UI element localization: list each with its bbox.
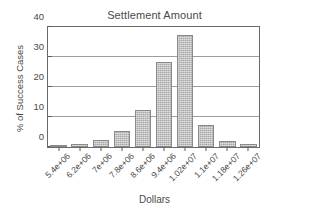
bar-cell xyxy=(238,27,259,147)
x-axis-tick-labels: 5.4e+066.2e+067e+067.8e+068.6e+069.4e+06… xyxy=(47,151,260,195)
bar xyxy=(198,125,214,148)
bar-cell xyxy=(69,27,90,147)
chart-figure: Settlement Amount % of Success Cases 010… xyxy=(0,0,309,216)
plot-area: 010203040 xyxy=(47,26,260,148)
bar xyxy=(177,35,193,147)
bar-cell xyxy=(196,27,217,147)
bar-cell xyxy=(153,27,174,147)
bar-cell xyxy=(175,27,196,147)
bar-series xyxy=(48,27,259,147)
bar-cell xyxy=(217,27,238,147)
y-axis-tick-label: 20 xyxy=(33,71,44,82)
y-axis-tick-label: 30 xyxy=(33,41,44,52)
chart-title: Settlement Amount xyxy=(0,9,309,21)
y-axis-tick-label: 40 xyxy=(33,11,44,22)
bar-cell xyxy=(90,27,111,147)
bar xyxy=(156,62,172,147)
bar xyxy=(114,131,130,148)
y-axis-tick-label: 10 xyxy=(33,101,44,112)
x-axis-label: Dollars xyxy=(0,194,309,205)
bar xyxy=(135,110,151,147)
bar-cell xyxy=(132,27,153,147)
y-axis-label: % of Success Cases xyxy=(14,29,25,149)
bar-cell xyxy=(111,27,132,147)
bar xyxy=(93,140,109,147)
y-axis-tick-label: 0 xyxy=(39,131,44,142)
bar-cell xyxy=(48,27,69,147)
